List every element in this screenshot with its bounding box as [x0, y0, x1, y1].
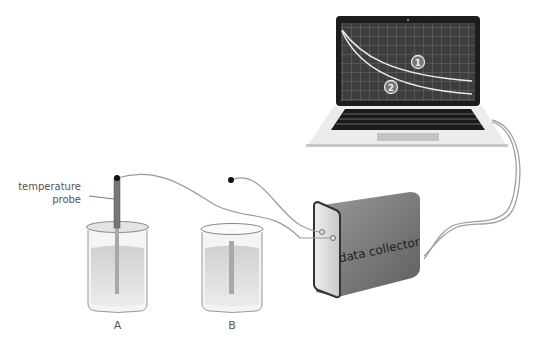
- probe-label-line1: temperature: [18, 181, 81, 192]
- beaker-b-rim: [201, 224, 263, 235]
- beaker-a-label: A: [114, 319, 122, 332]
- trackpad: [377, 133, 439, 141]
- rod-b: [229, 241, 234, 294]
- curve-2-label: 2: [388, 83, 394, 93]
- data-collector: data collector: [314, 192, 421, 297]
- input-port-2: [331, 236, 336, 241]
- laptop-base-edge: [306, 144, 508, 147]
- beaker-b: B: [201, 177, 263, 332]
- probe-leader-line: [89, 196, 114, 199]
- keyboard: [331, 109, 485, 130]
- experiment-diagram: 1 2 data collector A: [0, 0, 539, 342]
- laptop: 1 2: [306, 16, 508, 147]
- beaker-b-label: B: [228, 319, 236, 332]
- probe-b-tip: [228, 177, 234, 183]
- temperature-probe-a: [114, 178, 120, 228]
- probe-a-submerged: [115, 227, 119, 294]
- input-port-1: [320, 230, 325, 235]
- probe-label-line2: probe: [52, 194, 81, 205]
- webcam-icon: [407, 19, 410, 22]
- curve-1-label: 1: [415, 58, 421, 68]
- probe-callout: temperature probe: [18, 181, 114, 205]
- collector-face: [314, 202, 340, 297]
- probe-a-tip: [114, 175, 120, 181]
- beaker-a: A: [87, 175, 149, 332]
- screen-grid: [341, 23, 475, 101]
